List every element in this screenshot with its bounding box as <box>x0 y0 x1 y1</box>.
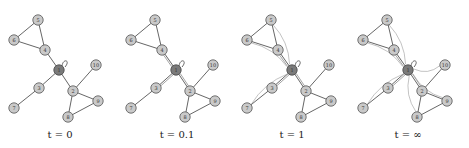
panel-p2: 12345678910t = 1 <box>242 15 336 140</box>
svg-text:1: 1 <box>290 67 293 73</box>
node-4: 4 <box>157 45 167 55</box>
svg-text:7: 7 <box>245 105 248 111</box>
node-8: 8 <box>180 112 190 122</box>
node-6: 6 <box>126 35 136 45</box>
node-9: 9 <box>442 96 452 106</box>
node-2: 2 <box>185 86 195 96</box>
svg-text:6: 6 <box>361 37 364 43</box>
svg-text:4: 4 <box>276 47 279 53</box>
svg-text:3: 3 <box>37 85 40 91</box>
graph-panels: 12345678910t = 012345678910t = 0.1123456… <box>0 0 469 148</box>
node-6: 6 <box>9 35 19 45</box>
node-10: 10 <box>440 60 450 70</box>
node-7: 7 <box>9 103 19 113</box>
node-10: 10 <box>324 60 334 70</box>
svg-text:6: 6 <box>129 37 132 43</box>
flow-arrow-3 <box>277 75 289 86</box>
node-5: 5 <box>33 15 43 25</box>
node-9: 9 <box>210 96 220 106</box>
svg-text:2: 2 <box>188 88 191 94</box>
node-3: 3 <box>34 83 44 93</box>
svg-text:7: 7 <box>361 105 364 111</box>
svg-text:6: 6 <box>245 37 248 43</box>
node-7: 7 <box>126 103 136 113</box>
node-7: 7 <box>242 103 252 113</box>
caption-p3: t = ∞ <box>394 129 421 140</box>
svg-text:10: 10 <box>326 62 332 68</box>
flow-curve-5 <box>389 25 406 64</box>
svg-text:10: 10 <box>442 62 448 68</box>
node-5: 5 <box>150 15 160 25</box>
svg-text:9: 9 <box>213 98 216 104</box>
svg-text:3: 3 <box>154 85 157 91</box>
svg-text:2: 2 <box>304 88 307 94</box>
flow-arrow-4 <box>280 55 288 66</box>
node-2: 2 <box>68 86 78 96</box>
node-1: 1 <box>403 65 413 75</box>
panel-p3: 12345678910t = ∞ <box>358 15 452 140</box>
svg-text:5: 5 <box>153 17 156 23</box>
flow-curve-10 <box>414 66 440 72</box>
node-9: 9 <box>93 96 103 106</box>
node-5: 5 <box>382 15 392 25</box>
node-8: 8 <box>63 112 73 122</box>
svg-text:3: 3 <box>270 85 273 91</box>
node-3: 3 <box>267 83 277 93</box>
caption-p2: t = 1 <box>279 129 304 140</box>
svg-text:7: 7 <box>129 105 132 111</box>
svg-text:5: 5 <box>385 17 388 23</box>
panel-p0: 12345678910t = 0 <box>9 15 103 140</box>
svg-text:4: 4 <box>43 47 46 53</box>
node-2: 2 <box>301 86 311 96</box>
svg-text:10: 10 <box>210 62 216 68</box>
flow-arrow-2 <box>180 73 188 85</box>
svg-text:4: 4 <box>392 47 395 53</box>
node-1: 1 <box>287 65 297 75</box>
node-4: 4 <box>40 45 50 55</box>
node-8: 8 <box>412 112 422 122</box>
caption-p1: t = 0.1 <box>160 129 195 140</box>
node-8: 8 <box>296 112 306 122</box>
svg-text:8: 8 <box>415 114 418 120</box>
node-3: 3 <box>383 83 393 93</box>
node-4: 4 <box>389 45 399 55</box>
svg-text:8: 8 <box>299 114 302 120</box>
node-3: 3 <box>151 83 161 93</box>
svg-text:9: 9 <box>445 98 448 104</box>
node-4: 4 <box>273 45 283 55</box>
node-10: 10 <box>91 60 101 70</box>
node-10: 10 <box>208 60 218 70</box>
svg-text:6: 6 <box>12 37 15 43</box>
svg-text:8: 8 <box>66 114 69 120</box>
node-6: 6 <box>242 35 252 45</box>
caption-p0: t = 0 <box>47 129 72 140</box>
svg-text:4: 4 <box>160 47 163 53</box>
node-7: 7 <box>358 103 368 113</box>
svg-text:1: 1 <box>57 67 60 73</box>
svg-text:2: 2 <box>71 88 74 94</box>
flow-curve-5 <box>273 25 290 64</box>
flow-arrow-3 <box>393 75 405 86</box>
flow-arrow-2 <box>296 73 304 85</box>
node-6: 6 <box>358 35 368 45</box>
flow-arrow-3 <box>161 75 173 86</box>
svg-text:2: 2 <box>420 88 423 94</box>
flow-curve-8 <box>408 76 416 112</box>
svg-text:5: 5 <box>36 17 39 23</box>
node-1: 1 <box>171 65 181 75</box>
flow-arrow-4 <box>396 55 404 66</box>
flow-curve-9 <box>413 74 443 98</box>
svg-text:9: 9 <box>329 98 332 104</box>
node-9: 9 <box>326 96 336 106</box>
svg-text:10: 10 <box>93 62 99 68</box>
flow-arrow-4 <box>164 55 172 66</box>
node-5: 5 <box>266 15 276 25</box>
svg-text:3: 3 <box>386 85 389 91</box>
svg-text:1: 1 <box>406 67 409 73</box>
svg-text:8: 8 <box>183 114 186 120</box>
svg-text:1: 1 <box>174 67 177 73</box>
svg-text:5: 5 <box>269 17 272 23</box>
panel-p1: 12345678910t = 0.1 <box>126 15 220 140</box>
svg-text:9: 9 <box>96 98 99 104</box>
svg-text:7: 7 <box>12 105 15 111</box>
